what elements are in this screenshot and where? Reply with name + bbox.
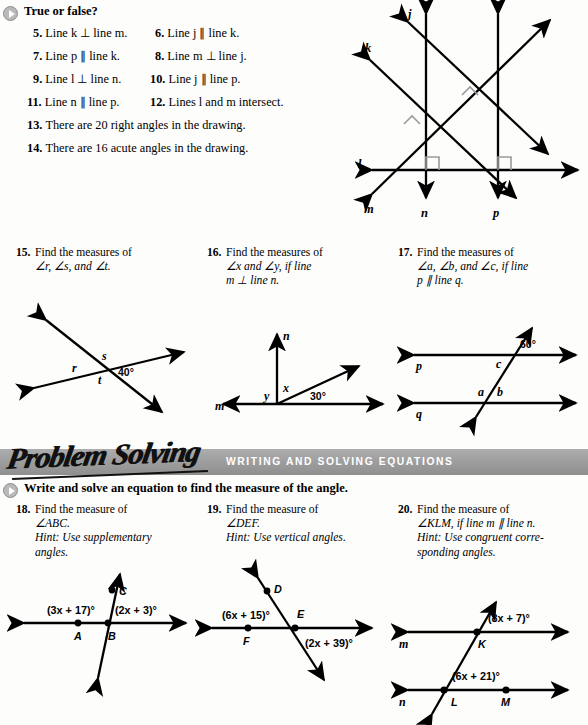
item-number: 17. [398, 246, 413, 260]
point-c-dot [109, 587, 116, 594]
textbook-page: True or false? 5. Line k ⊥ line m. 6. Li… [0, 0, 588, 725]
exercise-text-line: p ∥ line q. [417, 274, 464, 287]
exercise-17: 17. Find the measures of ∠a, ∠b, and ∠c,… [398, 246, 583, 289]
line-diagonal [46, 320, 162, 412]
item-number: 13. [27, 118, 45, 132]
exercise-hint-line: Hint: Use supplementary [35, 531, 152, 544]
label-p: p [415, 359, 422, 373]
item-text: Line j ∥ line k. [167, 26, 239, 40]
expression-left: (3x + 17)° [47, 604, 95, 616]
angle-label-r: r [72, 361, 77, 375]
exercise-16: 16. Find the measures of ∠x and ∠y, if l… [207, 246, 382, 289]
item-number: 18. [16, 503, 31, 517]
point-label-k: K [478, 638, 487, 650]
point-e-dot [292, 625, 299, 632]
angle-label-c: c [496, 357, 502, 371]
point-label-d: D [274, 583, 282, 595]
perpendicular-rays-xy: n m x y 30° [215, 320, 390, 420]
list-item: 5. Line k ⊥ line m. [33, 26, 127, 41]
point-label-b: B [108, 630, 116, 642]
exercise-18: 18. Find the measure of ∠ABC. Hint: Use … [16, 503, 196, 560]
exercise-20: 20. Find the measure of ∠KLM, if line m … [398, 503, 584, 560]
point-a-dot [75, 620, 82, 627]
angle-def-figure: D E F (6x + 15)° (2x + 39)° [200, 568, 385, 693]
exercise-text-line: ∠ABC. [35, 517, 70, 530]
label-q: q [416, 407, 422, 421]
line-label-m: m [399, 637, 408, 651]
angle-klm-figure: K L M m n (8x + 7)° (6x + 21)° [396, 588, 586, 723]
right-angle-marks [404, 87, 511, 170]
item-number: 11. [27, 95, 45, 109]
banner-subtitle: WRITING AND SOLVING EQUATIONS [226, 456, 454, 467]
exercise-hint-line: Hint: Use vertical angles. [226, 531, 346, 544]
item-text: There are 20 right angles in the drawing… [45, 118, 245, 132]
line-k [370, 60, 516, 198]
expression-right: (2x + 39)° [305, 637, 353, 649]
point-d-dot [264, 588, 271, 595]
exercise-text-line: ∠DEF. [226, 517, 260, 530]
point-label-f: F [243, 635, 250, 647]
item-text: Line k ⊥ line m. [45, 26, 127, 40]
point-label-m: M [501, 696, 511, 708]
item-number: 14. [27, 141, 45, 155]
item-text: Line j ∥ line p. [168, 72, 240, 86]
exercise-text-line: Find the measure of [35, 503, 127, 516]
item-number: 6. [155, 26, 167, 40]
list-item: 10. Line j ∥ line p. [150, 72, 240, 87]
point-m-dot [502, 686, 509, 693]
expression-top: (8x + 7)° [488, 612, 530, 624]
angle-label-t: t [98, 373, 102, 387]
angle-label-y: y [262, 389, 270, 403]
list-item: 12. Lines l and m intersect. [150, 95, 284, 110]
item-number: 7. [33, 49, 45, 63]
problem-solving-instruction: Write and solve an equation to find the … [24, 481, 348, 496]
transversal-line [432, 602, 496, 714]
point-b-dot [105, 620, 112, 627]
item-text: Line l ⊥ line n. [45, 72, 121, 86]
list-item: 14. There are 16 acute angles in the dra… [27, 141, 248, 156]
item-number: 15. [16, 246, 31, 260]
exercise-text-line: m ⊥ line n. [226, 274, 279, 287]
point-k-dot [473, 628, 480, 635]
label-n: n [421, 206, 428, 220]
item-number: 5. [33, 26, 45, 40]
item-text: Line n ∥ line p. [45, 95, 120, 109]
line-m [372, 20, 550, 194]
item-number: 10. [150, 72, 168, 86]
exercise-text-line: ∠x and ∠y, if line [226, 260, 311, 273]
expression-left: (6x + 15)° [222, 609, 270, 621]
item-number: 9. [33, 72, 45, 86]
point-label-a: A [73, 630, 82, 642]
angle-label-a: a [478, 385, 484, 399]
given-angle: 30° [310, 390, 326, 402]
expression-right: (2x + 3)° [115, 604, 157, 616]
point-label-e: E [297, 608, 305, 620]
exercise-text-line: Find the measure of [226, 503, 318, 516]
point-l-dot [440, 686, 447, 693]
label-k: k [365, 41, 372, 55]
exercise-text-line: ∠a, ∠b, and ∠c, if line [417, 260, 528, 273]
two-intersecting-lines-rst: r s t 40° [14, 310, 194, 420]
exercise-15: 15. Find the measures of ∠r, ∠s, and ∠t. [16, 246, 191, 274]
item-text: Line m ⊥ line j. [167, 49, 246, 63]
expression-bottom: (6x + 21)° [452, 670, 500, 682]
point-f-dot [245, 625, 252, 632]
exercise-19: 19. Find the measure of ∠DEF. Hint: Use … [207, 503, 387, 546]
angle-label-b: b [497, 385, 503, 399]
list-item: 9. Line l ⊥ line n. [33, 72, 121, 87]
label-m: m [215, 399, 224, 413]
item-text: Line p ∥ line k. [45, 49, 120, 63]
list-item: 7. Line p ∥ line k. [33, 49, 120, 64]
label-m: m [364, 202, 374, 216]
item-text: Lines l and m intersect. [168, 95, 283, 109]
exercise-hint-line: sponding angles. [417, 546, 496, 559]
item-number: 16. [207, 246, 222, 260]
angle-label-x: x [282, 381, 289, 395]
play-triangle-icon [3, 6, 18, 21]
line-label-n: n [399, 695, 406, 709]
label-j: j [406, 7, 412, 21]
item-text: There are 16 acute angles in the drawing… [45, 141, 248, 155]
angle-label-s: s [101, 349, 107, 363]
play-triangle-icon [3, 483, 18, 498]
given-angle: 40° [118, 366, 134, 378]
